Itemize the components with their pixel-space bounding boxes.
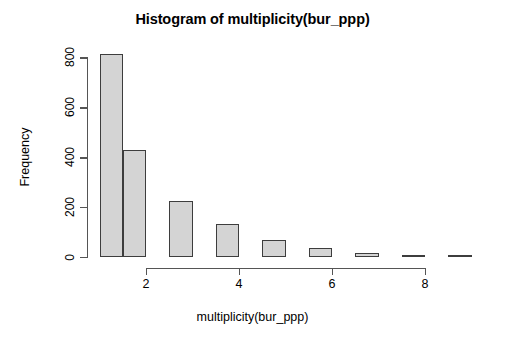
histogram-figure: Histogram of multiplicity(bur_ppp) 02004… — [0, 0, 505, 347]
y-axis-tick-label: 200 — [64, 197, 76, 217]
histogram-bar — [169, 201, 192, 257]
x-axis-tick-label: 4 — [219, 277, 259, 291]
x-axis-title: multiplicity(bur_ppp) — [0, 310, 505, 324]
y-axis-tick-label: 800 — [64, 47, 76, 67]
y-axis-title: Frequency — [18, 127, 32, 186]
y-axis-tick — [80, 257, 87, 258]
x-axis-tick — [332, 268, 333, 275]
histogram-bar — [355, 253, 378, 257]
x-axis-tick-label: 8 — [405, 277, 445, 291]
histogram-bar — [123, 150, 146, 257]
y-axis-tick — [80, 207, 87, 208]
y-axis-tick — [80, 107, 87, 108]
histogram-bar — [448, 255, 471, 257]
x-axis-tick-label: 6 — [312, 277, 352, 291]
x-axis-tick — [425, 268, 426, 275]
y-axis-line — [87, 57, 88, 258]
y-axis-tick-label: 400 — [64, 147, 76, 167]
plot-area: 0200400600800 2468 — [0, 0, 505, 347]
y-axis-tick-label: 0 — [64, 254, 76, 261]
x-axis-tick — [239, 268, 240, 275]
x-axis-line — [146, 268, 426, 269]
histogram-bar — [262, 240, 285, 257]
x-axis-tick-label: 2 — [126, 277, 166, 291]
x-axis-tick — [146, 268, 147, 275]
histogram-bar — [402, 255, 425, 257]
histogram-bar — [216, 224, 239, 257]
y-axis-tick — [80, 57, 87, 58]
histogram-bar — [309, 248, 332, 257]
y-axis-tick-label: 600 — [64, 97, 76, 117]
histogram-bar — [100, 54, 123, 257]
y-axis-tick — [80, 157, 87, 158]
